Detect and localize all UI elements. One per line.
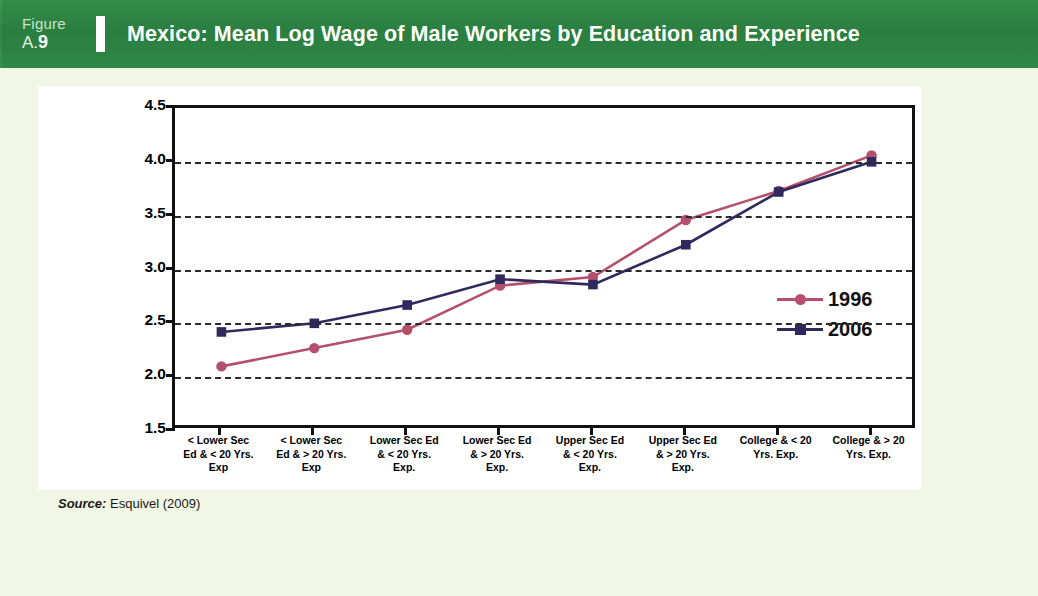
y-axis-tick-label: 4.0: [122, 150, 166, 168]
x-axis-labels: < Lower SecEd & < 20 Yrs.Exp< Lower SecE…: [172, 434, 915, 490]
page-title: Mexico: Mean Log Wage of Male Workers by…: [127, 22, 860, 47]
gridline: [175, 323, 912, 325]
header-divider: [96, 16, 105, 52]
y-axis-tick-mark: [166, 105, 175, 108]
data-point-square-2006: [588, 280, 598, 290]
x-axis-category-label: Lower Sec Ed& > 20 Yrs.Exp.: [451, 434, 544, 490]
figure-header-band: Figure A.9 Mexico: Mean Log Wage of Male…: [0, 0, 1038, 68]
circle-marker-icon: [795, 294, 806, 305]
figure-number-value: 9: [38, 32, 48, 52]
data-point-square-2006: [217, 327, 227, 337]
x-axis-category-label: Upper Sec Ed& < 20 Yrs.Exp.: [544, 434, 637, 490]
data-point-circle-1996: [309, 343, 319, 353]
gridline: [175, 377, 912, 379]
x-axis-tick-mark: [311, 428, 314, 435]
chart-legend: 1996 2006: [777, 284, 897, 344]
x-axis-tick-mark: [497, 428, 500, 435]
y-axis-tick-mark: [166, 428, 175, 431]
figure-number-label: A.9: [22, 32, 96, 53]
x-axis-tick-mark: [218, 428, 221, 435]
y-axis-tick-mark: [166, 374, 175, 377]
x-axis-tick-mark: [869, 428, 872, 435]
y-axis-tick-label: 4.5: [122, 96, 166, 114]
y-axis-tick-label: 1.5: [122, 419, 166, 437]
figure-word-label: Figure: [22, 15, 96, 32]
plot-area: 1996 2006: [172, 105, 915, 428]
x-axis-tick-mark: [590, 428, 593, 435]
y-axis-tick-label: 3.0: [122, 258, 166, 276]
y-axis-labels: 1.52.02.53.03.54.04.5: [110, 105, 166, 428]
x-axis-tick-mark: [404, 428, 407, 435]
gridline: [175, 216, 912, 218]
x-axis-category-label: Lower Sec Ed& < 20 Yrs.Exp.: [358, 434, 451, 490]
data-point-square-2006: [774, 187, 784, 197]
x-axis-category-label: College & > 20Yrs. Exp.: [822, 434, 915, 490]
x-axis-category-label: College & < 20Yrs. Exp.: [729, 434, 822, 490]
x-axis-tick-mark: [683, 428, 686, 435]
y-axis-tick-mark: [166, 320, 175, 323]
series-line-1996: [221, 155, 871, 366]
data-point-square-2006: [495, 274, 505, 284]
y-axis-tick-label: 2.5: [122, 311, 166, 329]
legend-item-2006: 2006: [777, 314, 897, 344]
legend-item-1996: 1996: [777, 284, 897, 314]
x-axis-category-label: Upper Sec Ed& > 20 Yrs.Exp.: [636, 434, 729, 490]
x-axis-category-label: < Lower SecEd & < 20 Yrs.Exp: [172, 434, 265, 490]
y-axis-tick-label: 2.0: [122, 365, 166, 383]
legend-swatch-1996: [777, 291, 823, 307]
y-axis-tick-label: 3.5: [122, 204, 166, 222]
source-text: Esquivel (2009): [106, 496, 200, 511]
y-axis-tick-mark: [166, 159, 175, 162]
legend-label-1996: 1996: [828, 288, 873, 311]
figure-marker: Figure A.9: [0, 15, 96, 53]
x-axis-category-label: < Lower SecEd & > 20 Yrs.Exp: [265, 434, 358, 490]
y-axis-tick-mark: [166, 213, 175, 216]
data-point-square-2006: [402, 300, 412, 310]
data-point-circle-1996: [402, 325, 412, 335]
legend-label-2006: 2006: [828, 318, 873, 341]
figure-number-prefix: A.: [22, 33, 38, 52]
source-label: Source:: [58, 496, 106, 511]
source-note: Source: Esquivel (2009): [58, 496, 200, 511]
x-axis-tick-mark: [776, 428, 779, 435]
data-point-circle-1996: [216, 361, 226, 371]
gridline: [175, 162, 912, 164]
data-point-square-2006: [681, 240, 691, 250]
gridline: [175, 270, 912, 272]
chart-panel: 1.52.02.53.03.54.04.5 1996 2006 < Lower …: [38, 86, 921, 490]
y-axis-tick-mark: [166, 267, 175, 270]
